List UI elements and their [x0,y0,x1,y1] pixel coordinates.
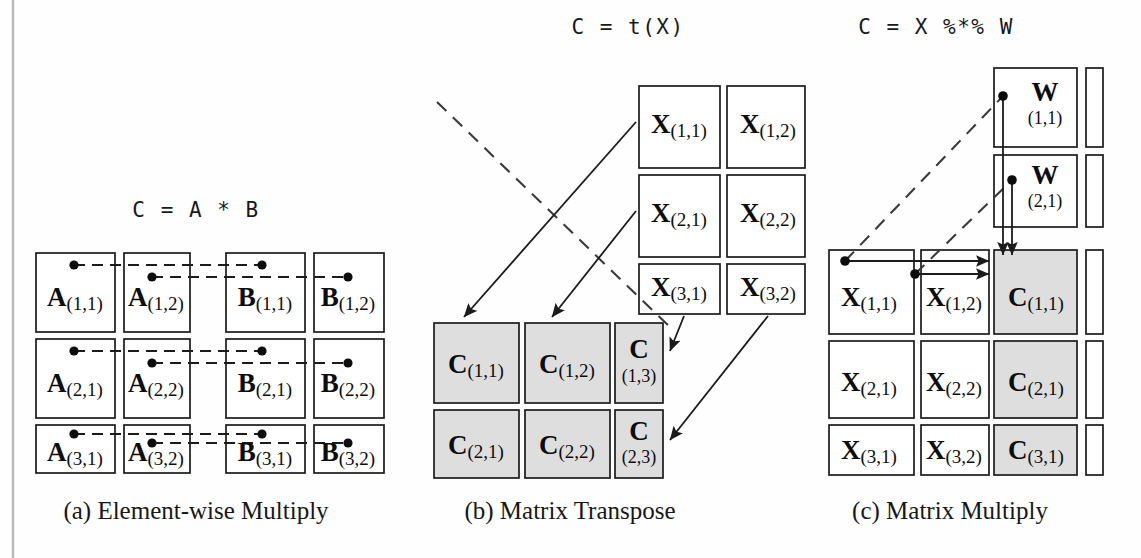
panel-a: C = A * B [36,198,384,525]
dot-a-3-1 [69,429,78,438]
label-cw-2-1-sub: (2,1) [1028,191,1063,212]
transpose-axis-dashed [437,102,673,330]
cell-cc-1-1 [994,250,1077,334]
cell-cc-2-2-truncated [1086,341,1103,418]
dot-b-1-2 [343,272,352,281]
dot-a-2-1 [69,346,78,355]
dot-b-3-1 [257,429,266,438]
panel-b: C = t(X) X(1,1) X(1,2) [434,15,805,525]
label-cw-1-1-sub: (1,1) [1028,108,1063,129]
panel-a-title: C = A * B [132,198,259,222]
panel-c-caption: (c) Matrix Multiply [852,497,1048,525]
arrow-x32-to-c23 [670,316,768,440]
dot-a-1-1 [69,260,78,269]
dot-cw-1-1 [998,91,1008,101]
dot-cx-1-2 [910,269,920,279]
arrow-x21-to-c12 [552,211,636,317]
dot-b-3-2 [343,438,352,447]
dot-cx-1-1 [840,256,850,266]
figure-root: C = A * B [0,0,1141,558]
arrow-x31-to-c13 [670,316,684,351]
dot-b-2-2 [343,358,352,367]
label-bc-1-3-base: C [629,334,649,364]
label-cw-1-1-base: W [1032,77,1059,107]
dot-b-2-1 [257,346,266,355]
cell-cc-1-2-truncated [1086,250,1103,334]
dot-a-3-2 [147,438,156,447]
panel-c: C = X %*% W [829,15,1103,525]
cell-cw-2-2-truncated [1086,155,1103,227]
dot-cw-2-1 [1007,175,1017,185]
dot-b-1-1 [257,260,266,269]
label-bc-2-3-sub: (2,3) [622,447,657,468]
cell-cc-3-2-truncated [1086,425,1103,475]
panel-b-caption: (b) Matrix Transpose [464,497,675,525]
label-bc-2-3-base: C [629,416,649,446]
label-cw-2-1-base: W [1032,160,1059,190]
dot-a-1-2 [147,272,156,281]
dot-a-2-2 [147,358,156,367]
arrow-x11-to-c11 [464,122,636,317]
panel-a-caption: (a) Element-wise Multiply [63,497,329,525]
diagram-canvas: C = A * B [0,0,1141,558]
link-x11-to-w11-dashed [845,96,1003,261]
panel-c-title: C = X %*% W [858,15,1014,39]
panel-b-title: C = t(X) [571,15,684,39]
label-bc-1-3-sub: (1,3) [622,366,657,387]
cell-cw-1-2-truncated [1086,68,1103,147]
